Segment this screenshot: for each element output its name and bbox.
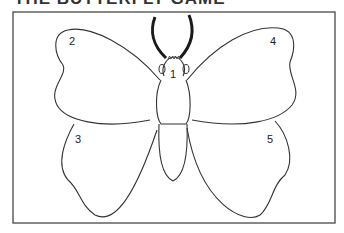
lower-right-wing xyxy=(187,121,290,217)
label-5: 5 xyxy=(267,133,273,145)
right-antenna xyxy=(180,15,192,58)
label-3: 3 xyxy=(75,133,81,145)
upper-right-wing xyxy=(187,28,296,124)
thorax xyxy=(156,80,190,124)
label-2: 2 xyxy=(69,35,75,47)
left-antenna xyxy=(153,17,166,58)
diagram-frame xyxy=(13,12,335,223)
left-eye xyxy=(159,65,165,74)
butterfly-diagram: 1 2 3 4 5 xyxy=(0,0,344,233)
right-eye xyxy=(183,65,189,74)
label-4: 4 xyxy=(270,35,276,47)
label-1: 1 xyxy=(170,68,176,80)
abdomen xyxy=(159,124,187,181)
